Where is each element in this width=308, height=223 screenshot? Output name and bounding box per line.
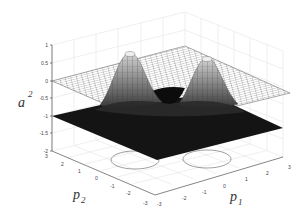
p2-tick: 2 <box>61 161 64 167</box>
svg-text:p: p <box>72 187 80 202</box>
p1-axis: -3 -2 -1 0 1 2 3 <box>155 157 291 207</box>
svg-text:2: 2 <box>28 89 33 99</box>
p1-tick: -1 <box>202 189 207 195</box>
z-axis: 1 0.5 0 -0.5 -1 -1.5 -2 <box>39 42 52 154</box>
z-tick: -1 <box>44 113 49 119</box>
z-tick: -1.5 <box>39 130 48 136</box>
z-tick: 0.5 <box>41 60 48 66</box>
p2-tick: 0 <box>95 175 98 181</box>
svg-text:2: 2 <box>81 195 86 205</box>
p2-tick: 1 <box>78 168 81 174</box>
p2-tick: 3 <box>45 153 48 159</box>
p1-tick: 0 <box>223 183 226 189</box>
p1-tick: 1 <box>245 176 248 182</box>
p1-tick: 2 <box>266 170 269 176</box>
p2-axis: 3 2 1 0 -1 -2 -3 <box>45 151 155 206</box>
peak-right-top <box>202 57 212 62</box>
z-axis-label: a 2 <box>18 89 33 110</box>
svg-text:a: a <box>18 95 25 110</box>
p2-tick: -2 <box>126 190 131 196</box>
peak-left-top <box>125 52 135 57</box>
p1-tick: -2 <box>182 195 187 201</box>
z-tick: 0 <box>45 78 48 84</box>
surface-plot: 1 0.5 0 -0.5 -1 -1.5 -2 3 2 1 0 -1 -2 -3… <box>0 0 308 223</box>
p2-axis-label: p 2 <box>72 187 86 205</box>
svg-text:1: 1 <box>238 197 243 207</box>
p2-tick: -1 <box>110 183 115 189</box>
z-tick: 1 <box>45 42 48 48</box>
p2-tick: -3 <box>143 200 148 206</box>
z-tick: -0.5 <box>39 95 48 101</box>
svg-text:p: p <box>229 189 237 204</box>
p1-tick: -3 <box>157 201 162 207</box>
p1-tick: 3 <box>288 164 291 170</box>
p1-axis-label: p 1 <box>229 189 243 207</box>
